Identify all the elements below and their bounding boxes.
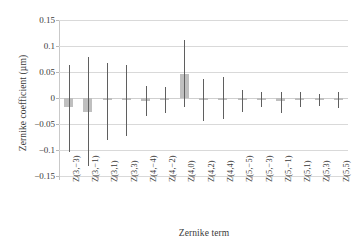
x-tick-label: Z(5,1) [303, 122, 312, 182]
error-bar [88, 57, 89, 166]
error-bar [107, 63, 108, 140]
error-bar [146, 86, 147, 117]
y-tick-label: 0.1 [10, 41, 55, 51]
error-bar [300, 92, 301, 107]
x-tick-mark [155, 176, 156, 180]
y-tick-label: 0 [10, 93, 55, 103]
x-tick-mark [290, 176, 291, 180]
x-tick-label: Z(5,−5) [245, 122, 254, 182]
error-bar [223, 77, 224, 119]
error-bar [203, 79, 204, 121]
error-bar [338, 92, 339, 108]
error-bar [126, 65, 127, 136]
x-tick-mark [309, 176, 310, 180]
y-tick-label: 0.15 [10, 15, 55, 25]
x-tick-label: Z(5,3) [322, 122, 331, 182]
x-tick-mark [78, 176, 79, 180]
x-tick-label: Z(5,−1) [284, 122, 293, 182]
x-tick-mark [59, 176, 60, 180]
zernike-coefficient-chart: Zernike coefficient (µm) 0.150.10.050−0.… [0, 0, 359, 249]
x-tick-mark [271, 176, 272, 180]
x-tick-mark [117, 176, 118, 180]
x-tick-mark [329, 176, 330, 180]
x-tick-label: Z(3,−3) [72, 122, 81, 182]
x-tick-label: Z(4,2) [207, 122, 216, 182]
y-tick-label: −0.1 [10, 145, 55, 155]
x-tick-label: Z(4,4) [226, 122, 235, 182]
y-tick-label: −0.15 [10, 171, 55, 181]
error-bar [184, 40, 185, 108]
error-bar [242, 90, 243, 111]
y-tick-label: −0.05 [10, 119, 55, 129]
x-tick-mark [252, 176, 253, 180]
error-bar [319, 94, 320, 106]
x-tick-label: Z(3,1) [110, 122, 119, 182]
x-tick-mark [98, 176, 99, 180]
x-tick-label: Z(5,5) [342, 122, 351, 182]
x-tick-mark [136, 176, 137, 180]
x-tick-mark [232, 176, 233, 180]
error-bar [69, 65, 70, 152]
error-bar [281, 92, 282, 113]
x-tick-mark [194, 176, 195, 180]
x-tick-mark [348, 176, 349, 180]
x-axis-title: Zernike term [59, 228, 349, 238]
x-tick-label: Z(3,−1) [91, 122, 100, 182]
error-bar [165, 87, 166, 113]
x-tick-label: Z(5,−3) [265, 122, 274, 182]
x-tick-label: Z(4,0) [187, 122, 196, 182]
error-bar [261, 92, 262, 107]
x-tick-mark [213, 176, 214, 180]
x-tick-mark [175, 176, 176, 180]
x-tick-label: Z(4,−4) [149, 122, 158, 182]
x-tick-label: Z(4,−2) [168, 122, 177, 182]
y-tick-label: 0.05 [10, 67, 55, 77]
x-tick-label: Z(3,3) [130, 122, 139, 182]
